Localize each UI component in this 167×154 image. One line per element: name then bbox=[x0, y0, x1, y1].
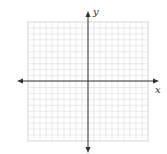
y-axis-down-arrow-icon bbox=[86, 147, 91, 153]
x-axis-label: x bbox=[155, 84, 161, 95]
y-axis-label: y bbox=[92, 6, 99, 17]
coordinate-plane: y x bbox=[0, 0, 167, 154]
x-axis-left-arrow-icon bbox=[17, 79, 23, 84]
y-axis-up-arrow-icon bbox=[86, 11, 91, 17]
x-axis-right-arrow-icon bbox=[153, 79, 159, 84]
